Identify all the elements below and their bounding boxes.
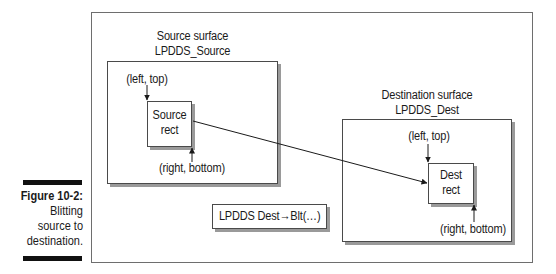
arrows-layer xyxy=(0,0,556,274)
blit-arrow xyxy=(193,121,427,183)
